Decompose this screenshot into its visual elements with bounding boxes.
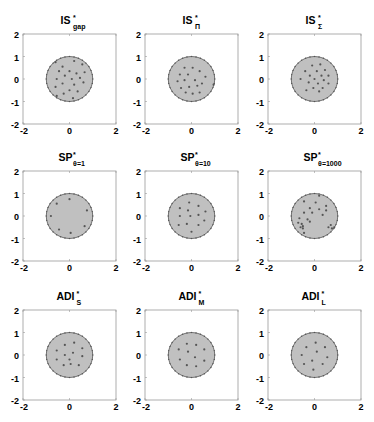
y-tick-label: 0 xyxy=(136,351,141,361)
y-tick-label: -1 xyxy=(11,374,19,384)
y-tick-label: 2 xyxy=(259,167,264,177)
data-point xyxy=(311,212,313,214)
data-point xyxy=(327,226,329,228)
panel-title: IS xyxy=(183,14,193,26)
y-tick-label: -1 xyxy=(256,235,264,245)
panel-title: SP xyxy=(303,151,317,163)
data-point xyxy=(188,86,190,88)
data-point xyxy=(316,351,318,353)
data-point xyxy=(186,364,188,366)
data-point xyxy=(194,356,196,358)
data-point xyxy=(311,360,313,362)
data-point xyxy=(190,231,192,233)
x-tick-label: 0 xyxy=(189,402,194,412)
data-point xyxy=(187,351,189,353)
x-tick-label: 0 xyxy=(189,126,194,136)
y-tick-label: -2 xyxy=(133,396,141,406)
data-point xyxy=(75,72,77,74)
data-point xyxy=(302,225,304,227)
y-tick-label: 2 xyxy=(136,167,141,177)
data-point xyxy=(322,87,324,89)
data-point xyxy=(301,223,303,225)
data-point xyxy=(178,224,180,226)
x-tick-label: 2 xyxy=(235,402,240,412)
data-point xyxy=(73,342,75,344)
panel-title-superscript: * xyxy=(195,151,198,158)
panel-title: IS xyxy=(61,14,71,26)
y-tick-label: 2 xyxy=(136,306,141,316)
data-point xyxy=(309,221,311,223)
panel-title-subscript: Σ xyxy=(318,23,322,30)
x-tick-label: -2 xyxy=(20,126,28,136)
panel-title-subscript: L xyxy=(321,299,326,306)
data-point xyxy=(327,82,329,84)
data-point xyxy=(299,226,301,228)
data-point xyxy=(325,209,327,211)
data-point xyxy=(84,225,86,227)
y-tick-label: -1 xyxy=(133,98,141,108)
data-point xyxy=(331,227,333,229)
data-point xyxy=(86,209,88,211)
data-point xyxy=(303,232,305,234)
panel-title: SP xyxy=(58,151,72,163)
data-point xyxy=(303,212,305,214)
data-point xyxy=(187,209,189,211)
x-tick-label: -2 xyxy=(142,402,150,412)
data-point xyxy=(199,70,201,72)
y-tick-label: 2 xyxy=(136,30,141,40)
y-tick-label: -1 xyxy=(256,374,264,384)
data-point xyxy=(179,215,181,217)
data-point xyxy=(64,75,66,77)
y-tick-label: -2 xyxy=(11,396,19,406)
data-point xyxy=(302,227,304,229)
data-point xyxy=(81,63,83,65)
data-point xyxy=(79,77,81,79)
y-tick-label: 0 xyxy=(259,351,264,361)
data-point xyxy=(58,70,60,72)
panel-title-subscript: θ=10 xyxy=(195,160,211,167)
data-point xyxy=(189,215,191,217)
y-tick-label: -2 xyxy=(133,120,141,130)
panel-title: ADI xyxy=(178,290,196,302)
data-point xyxy=(179,73,181,75)
y-tick-label: 2 xyxy=(14,167,19,177)
data-point xyxy=(82,81,84,83)
data-point xyxy=(324,346,326,348)
y-tick-label: -1 xyxy=(11,98,19,108)
data-point xyxy=(180,87,182,89)
y-tick-label: 0 xyxy=(14,351,19,361)
data-point xyxy=(84,71,86,73)
panel-title-superscript: * xyxy=(195,14,198,21)
y-tick-label: 2 xyxy=(14,306,19,316)
panel-is-gap: -2-1012-202IS*gap xyxy=(11,14,119,136)
y-tick-label: -2 xyxy=(11,257,19,267)
panel-adi-l: -2-1012-202ADI*L xyxy=(256,290,364,412)
panel-title-superscript: * xyxy=(76,290,79,297)
panel-title-superscript: * xyxy=(321,290,324,297)
panel-adi-s: -2-1012-202ADI*S xyxy=(11,290,119,412)
x-tick-label: 0 xyxy=(67,402,72,412)
data-point xyxy=(308,81,310,83)
data-point xyxy=(305,89,307,91)
y-tick-label: -1 xyxy=(256,98,264,108)
y-tick-label: -2 xyxy=(11,120,19,130)
data-point xyxy=(303,363,305,365)
data-point xyxy=(203,219,205,221)
data-point xyxy=(81,347,83,349)
data-point xyxy=(185,91,187,93)
data-point xyxy=(303,200,305,202)
data-point xyxy=(72,97,74,99)
y-tick-label: 2 xyxy=(14,30,19,40)
panel-title: ADI xyxy=(56,290,74,302)
panel-title-superscript: * xyxy=(318,151,321,158)
y-tick-label: 1 xyxy=(259,53,264,63)
panel-title: SP xyxy=(180,151,194,163)
y-tick-label: 0 xyxy=(14,212,19,222)
data-point xyxy=(306,218,308,220)
y-tick-label: 2 xyxy=(259,306,264,316)
data-point xyxy=(188,201,190,203)
data-point xyxy=(320,75,322,77)
panel-title: IS xyxy=(306,14,316,26)
panel-title-subscript: θ=1000 xyxy=(318,160,342,167)
data-point xyxy=(203,348,205,350)
